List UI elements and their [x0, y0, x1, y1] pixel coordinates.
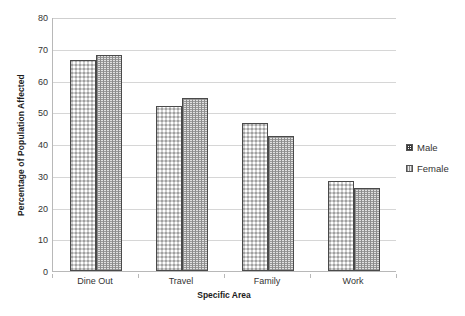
- bar-female-travel: [182, 98, 208, 271]
- y-axis-tick-label: 80: [38, 14, 48, 23]
- y-axis-tick-label: 20: [38, 204, 48, 213]
- x-axis-tick-label: Dine Out: [77, 276, 113, 286]
- bar-female-family: [268, 136, 294, 271]
- bar-male-travel: [156, 106, 182, 271]
- legend-item-female[interactable]: Female: [406, 163, 465, 174]
- x-axis-tick-mark: [52, 274, 53, 278]
- bar-female-dine-out: [96, 55, 122, 271]
- bar-chart: Percentage of Population Affected 010203…: [0, 0, 465, 316]
- bar-male-work: [328, 181, 354, 271]
- y-axis-tick-label: 0: [43, 268, 48, 277]
- x-axis-tick-mark: [396, 274, 397, 278]
- legend-label: Male: [417, 142, 438, 153]
- x-axis-title: Specific Area: [52, 290, 396, 300]
- plot-area: [52, 18, 396, 272]
- bar-female-work: [354, 188, 380, 271]
- y-axis-tick-label: 30: [38, 172, 48, 181]
- chart-legend: MaleFemale: [406, 142, 465, 184]
- bar-male-family: [242, 123, 268, 271]
- legend-item-male[interactable]: Male: [406, 142, 465, 153]
- y-axis-tick-label: 60: [38, 77, 48, 86]
- legend-swatch-icon: [406, 144, 413, 151]
- x-axis-tick-label: Work: [343, 276, 364, 286]
- legend-label: Female: [417, 163, 449, 174]
- bar-series-container: [53, 18, 396, 271]
- bar-male-dine-out: [70, 60, 96, 271]
- y-axis-tick-label: 10: [38, 236, 48, 245]
- legend-swatch-icon: [406, 165, 413, 172]
- x-axis-tick-mark: [224, 274, 225, 278]
- y-axis-tick-label: 70: [38, 45, 48, 54]
- x-axis-tick-label: Family: [254, 276, 281, 286]
- x-axis-tick-mark: [310, 274, 311, 278]
- y-axis-tick-label: 40: [38, 141, 48, 150]
- x-axis-tick-label: Travel: [169, 276, 194, 286]
- y-axis-tick-label: 50: [38, 109, 48, 118]
- x-axis-tick-mark: [138, 274, 139, 278]
- y-axis-tick-labels: 01020304050607080: [22, 0, 48, 316]
